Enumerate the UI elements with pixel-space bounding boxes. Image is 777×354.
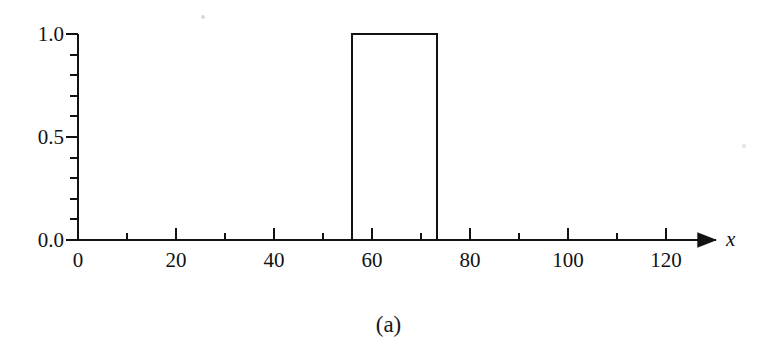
figure-panel: 1.0 0.5 0.0 0 20 40 60 80 100 120 x (a): [0, 0, 777, 354]
x-tick-label: 0: [73, 250, 84, 271]
pulse-curve: [352, 34, 437, 240]
x-axis-label: x: [726, 229, 735, 250]
plot-area: [0, 0, 777, 354]
x-tick-label: 120: [650, 250, 682, 271]
x-tick-label: 60: [362, 250, 383, 271]
figure-caption: (a): [0, 312, 777, 338]
y-tick-label: 1.0: [8, 24, 64, 45]
y-tick-label: 0.0: [8, 230, 64, 251]
x-tick-label: 20: [166, 250, 187, 271]
x-tick-label: 100: [552, 250, 584, 271]
y-tick-label: 0.5: [8, 127, 64, 148]
x-tick-label: 80: [460, 250, 481, 271]
x-tick-label: 40: [264, 250, 285, 271]
